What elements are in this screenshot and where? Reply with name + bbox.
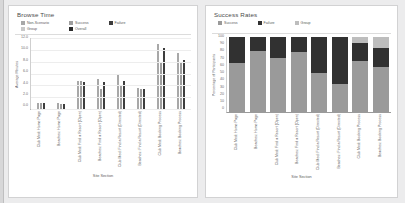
browse-time-legend-item[interactable]: Success bbox=[69, 20, 89, 26]
success-rates-stack-segment[interactable] bbox=[270, 58, 286, 112]
success-rates-bar-stack[interactable] bbox=[250, 37, 266, 112]
gridline bbox=[31, 38, 191, 39]
browse-time-x-tick-label: Beaches: Booking Process bbox=[171, 111, 191, 173]
legend-swatch-icon bbox=[218, 21, 222, 25]
success-rates-y-tick-label: 20 bbox=[220, 93, 224, 97]
success-rates-stack-segment[interactable] bbox=[311, 37, 327, 73]
success-rates-bar-stack[interactable] bbox=[270, 37, 286, 112]
success-rates-stack-segment[interactable] bbox=[291, 52, 307, 112]
legend-swatch-icon bbox=[69, 27, 73, 31]
success-rates-stack-segment[interactable] bbox=[311, 73, 327, 112]
browse-time-y-ticks: 12.010.08.06.04.02.00.0 bbox=[21, 38, 30, 110]
browse-time-bar[interactable] bbox=[163, 48, 166, 109]
success-rates-legend-column: Failure bbox=[258, 20, 275, 31]
browse-time-plot-area bbox=[30, 38, 191, 110]
gridline bbox=[31, 74, 191, 75]
browse-time-y-tick-label: 4.0 bbox=[23, 82, 28, 86]
browse-time-x-tick-label: Beaches: Find a Resort (Open) bbox=[90, 111, 110, 173]
success-rates-bar-stacks bbox=[227, 37, 391, 112]
success-rates-y-tick-label: 40 bbox=[220, 79, 224, 83]
browse-time-x-tick-text: Club Med: Find a Resort (Directed) bbox=[119, 111, 123, 167]
success-rates-stack-segment[interactable] bbox=[373, 67, 389, 112]
window-edge-strip bbox=[0, 0, 4, 203]
browse-time-chart-panel: Browse Time Non-ScenarioGroupSuccessOver… bbox=[8, 5, 198, 198]
success-rates-x-label-spacer bbox=[212, 114, 226, 174]
browse-time-legend: Non-ScenarioGroupSuccessOverallFailure bbox=[15, 20, 191, 35]
browse-time-x-label-spacer bbox=[15, 111, 30, 173]
browse-time-y-tick-label: 2.0 bbox=[23, 93, 28, 97]
success-rates-bar-stack[interactable] bbox=[291, 37, 307, 112]
success-rates-x-tick-text: Club Med: Find a Resort (Directed) bbox=[317, 114, 321, 170]
success-rates-x-label-list: Club Med: Home PageBeaches: Home PageClu… bbox=[226, 114, 391, 174]
gridline bbox=[31, 109, 191, 110]
legend-swatch-icon bbox=[295, 21, 299, 25]
success-rates-bar-stack[interactable] bbox=[352, 37, 368, 112]
success-rates-bar-stack[interactable] bbox=[373, 37, 389, 112]
success-rates-x-tick-label: Beaches: Find a Resort (Directed) bbox=[329, 114, 350, 174]
success-rates-x-tick-label: Club Med: Booking Process bbox=[350, 114, 371, 174]
success-rates-stack-segment[interactable] bbox=[229, 63, 245, 112]
success-rates-x-tick-label: Club Med: Find a Resort (Directed) bbox=[309, 114, 330, 174]
success-rates-x-tick-label: Beaches: Find a Resort (Open) bbox=[288, 114, 309, 174]
success-rates-y-ticks: 1009080706050403020100 bbox=[218, 37, 226, 113]
browse-time-legend-item[interactable]: Group bbox=[21, 26, 49, 32]
legend-swatch-icon bbox=[21, 21, 25, 25]
browse-time-legend-item[interactable]: Failure bbox=[109, 20, 126, 26]
browse-time-x-tick-label: Club Med: Booking Process bbox=[151, 111, 171, 173]
success-rates-stack-segment[interactable] bbox=[332, 84, 348, 113]
success-rates-x-tick-text: Club Med: Booking Process bbox=[358, 114, 362, 158]
success-rates-legend-label: Failure bbox=[264, 21, 275, 25]
browse-time-y-axis-title: Average Minutes bbox=[15, 61, 21, 88]
success-rates-plot-area bbox=[226, 37, 391, 113]
gridline bbox=[31, 85, 191, 86]
success-rates-stack-segment[interactable] bbox=[332, 37, 348, 84]
browse-time-legend-column: Non-ScenarioGroup bbox=[21, 20, 49, 32]
browse-time-x-tick-text: Beaches: Find a Resort (Directed) bbox=[139, 111, 143, 166]
browse-time-x-tick-text: Beaches: Booking Process bbox=[179, 111, 183, 154]
success-rates-x-tick-text: Club Med: Find a Resort (Open) bbox=[276, 114, 280, 165]
success-rates-stack-segment[interactable] bbox=[291, 37, 307, 52]
success-rates-plot-wrap: Percentage of Participants 1009080706050… bbox=[212, 37, 391, 113]
success-rates-stack-segment[interactable] bbox=[373, 37, 389, 48]
browse-time-x-tick-text: Club Med: Home Page bbox=[38, 111, 42, 147]
legend-swatch-icon bbox=[109, 21, 113, 25]
browse-time-legend-column: Failure bbox=[109, 20, 126, 32]
success-rates-bar-stack[interactable] bbox=[332, 37, 348, 112]
browse-time-bar[interactable] bbox=[143, 89, 146, 109]
success-rates-x-labels: Club Med: Home PageBeaches: Home PageClu… bbox=[212, 114, 391, 174]
success-rates-title: Success Rates bbox=[214, 11, 391, 18]
success-rates-y-tick-label: 10 bbox=[220, 100, 224, 104]
success-rates-x-tick-text: Beaches: Booking Process bbox=[379, 114, 383, 157]
success-rates-y-tick-label: 80 bbox=[220, 50, 224, 54]
browse-time-legend-item[interactable]: Non-Scenario bbox=[21, 20, 49, 26]
browse-time-plot-wrap: Average Minutes 12.010.08.06.04.02.00.0 bbox=[15, 38, 191, 110]
success-rates-stack-segment[interactable] bbox=[250, 37, 266, 51]
success-rates-stack-segment[interactable] bbox=[250, 51, 266, 113]
success-rates-stack-segment[interactable] bbox=[270, 37, 286, 58]
success-rates-bar-stack[interactable] bbox=[229, 37, 245, 112]
success-rates-x-tick-label: Club Med: Home Page bbox=[226, 114, 247, 174]
browse-time-y-tick-label: 0.0 bbox=[23, 105, 28, 109]
success-rates-legend-column: Success bbox=[218, 20, 238, 31]
success-rates-y-tick-label: 90 bbox=[220, 42, 224, 46]
success-rates-stack-segment[interactable] bbox=[373, 48, 389, 68]
legend-swatch-icon bbox=[21, 27, 25, 31]
success-rates-legend-item[interactable]: Failure bbox=[258, 20, 275, 26]
success-rates-stack-segment[interactable] bbox=[229, 37, 245, 63]
browse-time-x-tick-text: Beaches: Find a Resort (Open) bbox=[99, 111, 103, 161]
success-rates-stack-segment[interactable] bbox=[352, 61, 368, 112]
gridline bbox=[31, 62, 191, 63]
browse-time-legend-item[interactable]: Overall bbox=[69, 26, 89, 32]
browse-time-y-tick-label: 8.0 bbox=[23, 59, 28, 63]
gridline bbox=[31, 50, 191, 51]
browse-time-y-tick-label: 10.0 bbox=[21, 48, 28, 52]
success-rates-legend-column: Group bbox=[295, 20, 311, 31]
success-rates-stack-segment[interactable] bbox=[352, 43, 368, 61]
success-rates-legend-item[interactable]: Success bbox=[218, 20, 238, 26]
browse-time-x-tick-label: Beaches: Home Page bbox=[50, 111, 70, 173]
success-rates-bar-stack[interactable] bbox=[311, 37, 327, 112]
browse-time-x-tick-text: Beaches: Home Page bbox=[58, 111, 62, 146]
browse-time-x-tick-label: Beaches: Find a Resort (Directed) bbox=[131, 111, 151, 173]
browse-time-x-label-list: Club Med: Home PageBeaches: Home PageClu… bbox=[30, 111, 191, 173]
success-rates-legend-item[interactable]: Group bbox=[295, 20, 311, 26]
